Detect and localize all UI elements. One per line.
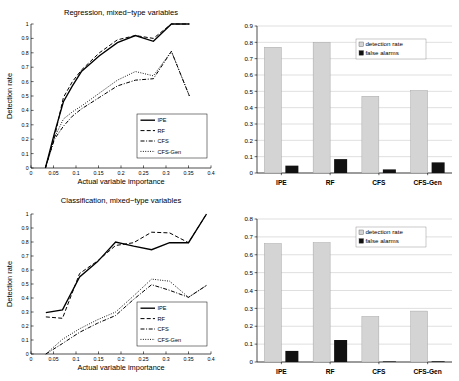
x-tick-label: 0 xyxy=(30,170,33,176)
x-category-label: CFS xyxy=(372,368,386,375)
bar-detection-rate xyxy=(362,316,379,362)
legend-swatch-false-alarms xyxy=(359,239,364,244)
classification-bar-chart: 00.10.20.30.40.50.60.70.8IPERFCFSCFS-Gen… xyxy=(230,190,459,381)
y-tick-label: 0.3 xyxy=(21,122,28,128)
bar-detection-rate xyxy=(264,47,281,173)
legend-label-ipe: IPE xyxy=(158,305,167,311)
y-tick-label: 0.4 xyxy=(21,295,28,301)
y-tick-label: 0.8 xyxy=(244,39,253,46)
y-tick-label: 1 xyxy=(26,21,29,27)
bar-false-alarms xyxy=(432,361,445,362)
bar-false-alarms xyxy=(383,361,396,362)
x-tick-label: 0.05 xyxy=(48,170,58,176)
y-tick-label: 0.2 xyxy=(21,136,28,142)
y-tick-label: 0.5 xyxy=(21,281,28,287)
x-tick-label: 0.35 xyxy=(183,170,193,176)
bar-false-alarms xyxy=(432,162,445,173)
x-axis-label: Actual variable importance xyxy=(77,363,164,372)
x-category-label: RF xyxy=(326,368,335,375)
y-tick-label: 0.5 xyxy=(244,88,253,95)
y-tick-label: 0.3 xyxy=(244,120,253,127)
legend-swatch-false-alarms xyxy=(359,51,364,56)
legend-label-rf: RF xyxy=(158,316,166,322)
legend-label-cfs-gen: CFS-Gen xyxy=(158,337,182,343)
classification-line-chart-svg: Classification, mixed−type variables00.0… xyxy=(0,190,230,381)
legend-label-ipe: IPE xyxy=(158,117,167,123)
x-tick-label: 0.1 xyxy=(72,356,79,362)
bar-detection-rate xyxy=(411,91,428,173)
y-tick-label: 0.1 xyxy=(244,340,253,347)
x-category-label: CFS-Gen xyxy=(414,179,442,186)
y-tick-label: 0 xyxy=(250,358,254,365)
y-tick-label: 0 xyxy=(26,165,29,171)
y-tick-label: 0.6 xyxy=(21,79,28,85)
x-category-label: CFS-Gen xyxy=(414,368,442,375)
regression-bar-chart-svg: 00.10.20.30.40.50.60.70.80.9IPERFCFSCFS-… xyxy=(230,0,459,192)
y-tick-label: 0.2 xyxy=(244,322,253,329)
chart-title: Classification, mixed−type variables xyxy=(61,196,182,205)
y-tick-label: 0.2 xyxy=(244,137,253,144)
legend-label-false-alarms: false alarms xyxy=(365,237,398,244)
y-tick-label: 0.7 xyxy=(21,253,28,259)
y-tick-label: 0.4 xyxy=(244,104,253,111)
y-tick-label: 0.7 xyxy=(244,233,253,240)
bar-false-alarms xyxy=(383,169,396,173)
x-category-label: RF xyxy=(326,179,335,186)
y-tick-label: 0.9 xyxy=(21,225,28,231)
x-category-label: IPE xyxy=(276,368,287,375)
y-tick-label: 0.3 xyxy=(21,309,28,315)
x-tick-label: 0 xyxy=(30,356,33,362)
x-tick-label: 0.15 xyxy=(93,356,103,362)
x-axis-label: Actual variable importance xyxy=(77,177,164,186)
bar-false-alarms xyxy=(285,351,298,362)
figure-root: Regression, mixed−type variables00.050.1… xyxy=(0,0,459,381)
y-axis-label: Detection rate xyxy=(5,261,14,307)
y-tick-label: 0.1 xyxy=(21,337,28,343)
legend-label-detection-rate: detection rate xyxy=(365,40,403,47)
x-category-label: IPE xyxy=(276,179,287,186)
regression-line-chart-svg: Regression, mixed−type variables00.050.1… xyxy=(0,0,230,192)
y-tick-label: 0.6 xyxy=(244,251,253,258)
x-tick-label: 0.4 xyxy=(207,170,214,176)
bar-false-alarms xyxy=(334,159,347,173)
y-tick-label: 0.8 xyxy=(21,50,28,56)
y-tick-label: 0.6 xyxy=(21,267,28,273)
x-category-label: CFS xyxy=(372,179,386,186)
y-tick-label: 0.3 xyxy=(244,305,253,312)
y-tick-label: 0.7 xyxy=(21,64,28,70)
y-axis-label: Detection rate xyxy=(5,73,14,119)
x-tick-label: 0.1 xyxy=(72,170,79,176)
x-tick-label: 0.35 xyxy=(183,356,193,362)
y-tick-label: 0.8 xyxy=(244,215,253,222)
classification-bar-chart-svg: 00.10.20.30.40.50.60.70.8IPERFCFSCFS-Gen… xyxy=(230,190,459,381)
y-tick-label: 0.9 xyxy=(244,22,253,29)
y-tick-label: 0.8 xyxy=(21,239,28,245)
bar-detection-rate xyxy=(411,311,428,362)
y-tick-label: 0.5 xyxy=(21,93,28,99)
y-tick-label: 0.6 xyxy=(244,71,253,78)
bar-false-alarms xyxy=(285,166,298,173)
y-tick-label: 0 xyxy=(26,351,29,357)
x-tick-label: 0.25 xyxy=(138,170,148,176)
y-tick-label: 0.9 xyxy=(21,35,28,41)
y-tick-label: 0.4 xyxy=(244,287,253,294)
legend-label-cfs-gen: CFS-Gen xyxy=(158,149,182,155)
legend-label-rf: RF xyxy=(158,128,166,134)
legend-label-cfs: CFS xyxy=(158,138,169,144)
legend-swatch-detection-rate xyxy=(359,42,364,47)
legend-label-cfs: CFS xyxy=(158,326,169,332)
y-tick-label: 0.1 xyxy=(244,153,253,160)
y-tick-label: 0.2 xyxy=(21,323,28,329)
regression-line-chart: Regression, mixed−type variables00.050.1… xyxy=(0,0,230,192)
y-tick-label: 0.5 xyxy=(244,269,253,276)
legend-swatch-detection-rate xyxy=(359,230,364,235)
bar-detection-rate xyxy=(313,243,330,362)
x-tick-label: 0.4 xyxy=(207,356,214,362)
bar-detection-rate xyxy=(362,96,379,173)
x-tick-label: 0.3 xyxy=(162,170,169,176)
x-tick-label: 0.2 xyxy=(117,356,124,362)
chart-title: Regression, mixed−type variables xyxy=(64,8,178,17)
y-tick-label: 0.4 xyxy=(21,107,28,113)
classification-line-chart: Classification, mixed−type variables00.0… xyxy=(0,190,230,381)
y-tick-label: 0.7 xyxy=(244,55,253,62)
